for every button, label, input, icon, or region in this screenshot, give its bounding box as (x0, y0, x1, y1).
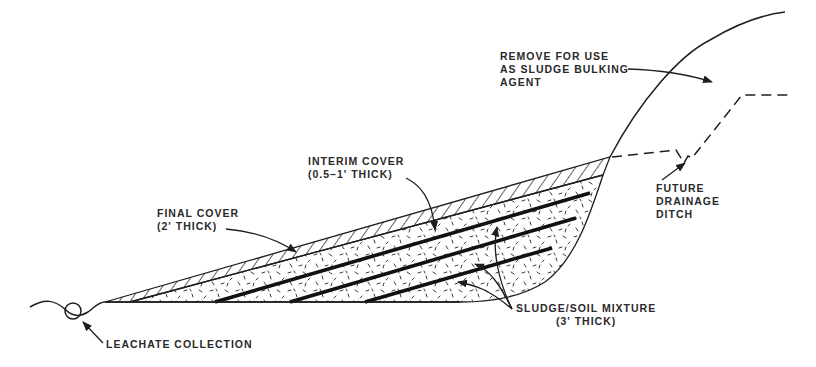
label-line: FUTURE (656, 182, 720, 195)
leachate-arrow (83, 322, 103, 343)
label-line: INTERIM COVER (308, 155, 404, 168)
label-sludge-soil-mixture: SLUDGE/SOIL MIXTURE (3' THICK) (516, 302, 656, 328)
hill-slope-line (610, 12, 785, 157)
label-future-drainage-ditch: FUTURE DRAINAGE DITCH (656, 182, 720, 221)
sludge-soil-body (130, 175, 603, 302)
future-ditch-arrow (662, 163, 685, 180)
ground-profile-line (30, 301, 105, 315)
label-line: DITCH (656, 208, 720, 221)
label-line: DRAINAGE (656, 195, 720, 208)
label-line: (2' THICK) (157, 220, 239, 233)
future-drainage-ditch-line (612, 95, 790, 163)
label-remove-for-use: REMOVE FOR USE AS SLUDGE BULKING AGENT (500, 50, 629, 89)
label-final-cover: FINAL COVER (2' THICK) (157, 207, 239, 233)
label-line: LEACHATE COLLECTION (106, 338, 253, 351)
label-line: SLUDGE/SOIL MIXTURE (516, 302, 656, 315)
label-leachate-collection: LEACHATE COLLECTION (106, 338, 253, 351)
label-line: AGENT (500, 76, 629, 89)
label-line: AS SLUDGE BULKING (500, 63, 629, 76)
label-line: (3' THICK) (516, 315, 656, 328)
label-interim-cover: INTERIM COVER (0.5–1' THICK) (308, 155, 404, 181)
label-line: (0.5–1' THICK) (308, 168, 404, 181)
label-line: FINAL COVER (157, 207, 239, 220)
label-line: REMOVE FOR USE (500, 50, 629, 63)
